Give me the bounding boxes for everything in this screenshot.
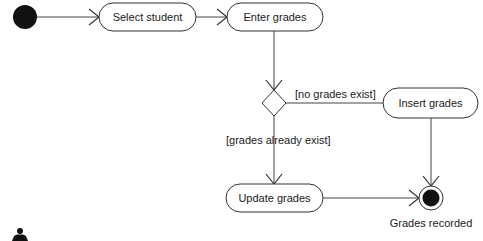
action-enter-grades: Enter grades [227, 3, 323, 31]
person-icon [12, 228, 28, 241]
action-label: Insert grades [398, 97, 463, 109]
initial-node [13, 5, 37, 29]
action-label: Enter grades [244, 11, 307, 23]
action-update-grades: Update grades [226, 184, 323, 212]
action-label: Select student [113, 11, 183, 23]
guard-no-grades: [no grades exist] [295, 88, 376, 100]
activity-diagram: Select student Enter grades [no grades e… [0, 0, 483, 241]
action-insert-grades: Insert grades [383, 88, 478, 118]
guard-grades-exist: [grades already exist] [226, 134, 331, 146]
final-node-label: Grades recorded [390, 217, 473, 229]
decision-node [262, 90, 286, 116]
final-node [419, 186, 443, 210]
action-label: Update grades [238, 192, 311, 204]
action-select-student: Select student [99, 3, 196, 31]
